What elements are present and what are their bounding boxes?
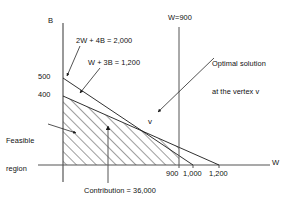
constraint-2-label: W + 3B = 1,200	[88, 58, 140, 67]
leader-constraint-1	[67, 46, 80, 76]
optimal-solution-line-2: at the vertex v	[212, 87, 266, 96]
optimal-solution-callout: Optimal solution at the vertex v	[212, 41, 266, 115]
optimal-solution-line-1: Optimal solution	[212, 59, 266, 68]
feasible-region-hatch	[55, 85, 195, 175]
x-tick-label-1200: 1,200	[209, 169, 228, 178]
leader-optimal-solution	[158, 58, 214, 112]
y-tick-label-500: 500	[38, 72, 50, 81]
y-tick-label-400: 400	[38, 90, 50, 99]
y-axis-label: B	[48, 16, 53, 25]
x-axis-label: W	[272, 158, 279, 167]
constraint-w900-label: W=900	[168, 13, 192, 22]
linear-programming-figure: B W 500 400 900 1,000 1,200 2W + 4B = 2,…	[0, 0, 292, 205]
contribution-label: Contribution = 36,000	[84, 186, 156, 195]
leader-constraint-2	[80, 68, 100, 93]
x-tick-label-900: 900	[166, 169, 178, 178]
feasible-region-line-1: Feasible	[6, 136, 34, 145]
feasible-region-line-2: region	[6, 164, 34, 173]
vertex-label: v	[148, 117, 152, 126]
feasible-region-callout: Feasible region	[6, 118, 34, 192]
x-tick-label-1000: 1,000	[183, 169, 202, 178]
constraint-1-label: 2W + 4B = 2,000	[76, 36, 132, 45]
